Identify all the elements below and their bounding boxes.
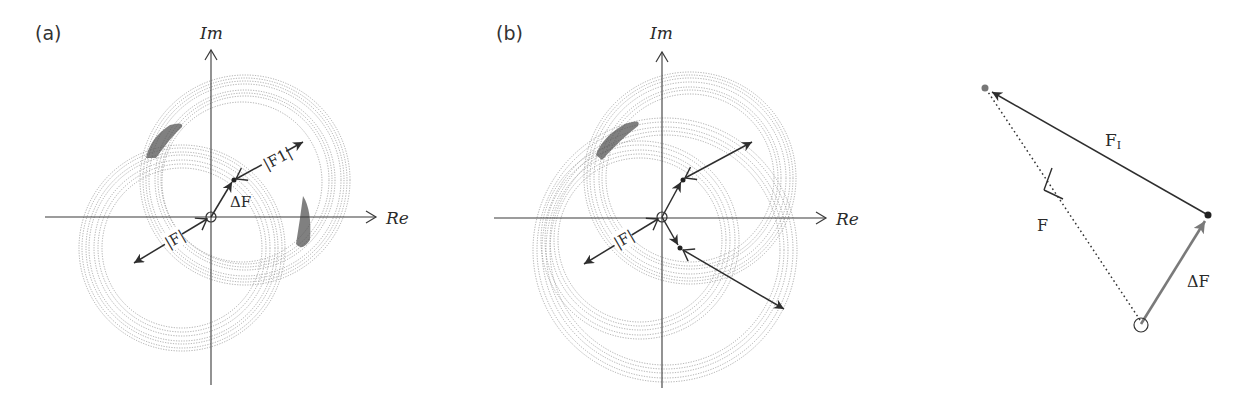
panel-b-delta-f-up-tip [681, 178, 686, 183]
panel-a-re-label: Re [385, 208, 409, 228]
panel-a-delta-f-vector [211, 182, 232, 217]
panel-a-intersection-blob-2 [296, 196, 310, 247]
panel-b-ring-cluster-2 [541, 141, 739, 339]
panel-b-f1-up-magnitude-arrow [685, 142, 752, 178]
panel-a-f1-label: |F1| [260, 144, 295, 174]
panel-b-f1-down-magnitude-arrow [683, 250, 784, 309]
panel-a-delta-f-tip [232, 178, 237, 183]
panel-b-f-label: |F| [611, 226, 638, 252]
panel-a-tag: (a) [35, 22, 61, 44]
delta-f-tip-dot [1205, 212, 1212, 219]
panel-b-tag: (b) [496, 22, 523, 44]
f-i-tip-dot [982, 85, 989, 92]
panel-b-delta-f-down-tip [678, 246, 683, 251]
panel-a-ring-cluster-2 [79, 145, 285, 351]
panel-b-delta-f-up-vector [662, 182, 681, 217]
f-direction-arrow-icon [1044, 168, 1063, 199]
origin-marker [1134, 318, 1148, 332]
panel-b: (b) I [494, 22, 859, 388]
panel-a-intersection-blob-1 [146, 123, 182, 158]
panel-a-delta-f-label: ΔF [230, 193, 251, 211]
panel-b-delta-f-down-vector [662, 217, 678, 245]
delta-f-label: ΔF [1187, 272, 1210, 291]
f-i-label: FI [1105, 130, 1121, 152]
panel-vector-triangle: FI F ΔF [982, 85, 1212, 333]
f-label: F [1037, 216, 1048, 235]
panel-a-im-label: Im [199, 23, 223, 43]
panel-a-f1-label-group: |F1| [257, 142, 295, 175]
panel-b-re-label: Re [835, 209, 859, 229]
panel-a: (a) Im Re [35, 22, 409, 385]
panel-b-f-label-group: |F| [609, 225, 638, 253]
panel-b-im-label: Im [649, 23, 673, 43]
f-i-vector [992, 92, 1208, 215]
panel-a-ring-cluster-1 [140, 75, 350, 285]
f-vector-dotted [988, 92, 1140, 320]
panel-a-f-label-group: |F| [160, 225, 189, 253]
figure-canvas: (a) Im Re [0, 0, 1252, 401]
panel-b-ring-cluster-1 [584, 72, 796, 284]
